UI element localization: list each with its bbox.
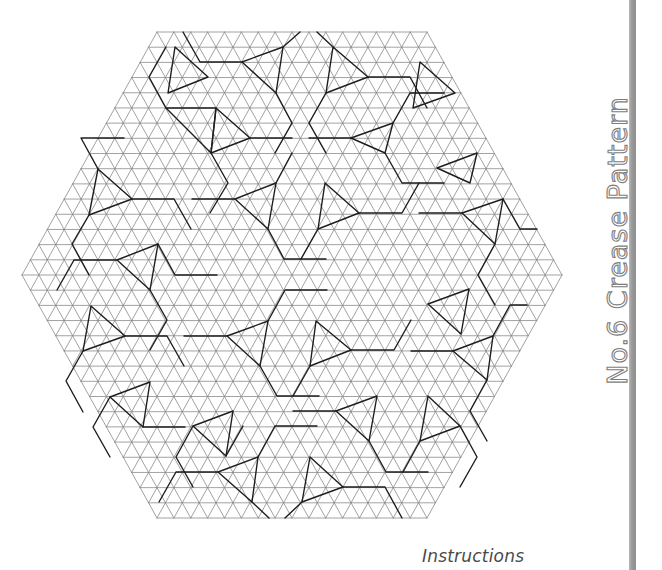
grid-line xyxy=(216,214,224,229)
grid-line xyxy=(351,442,359,457)
grid-line xyxy=(241,366,249,381)
grid-line xyxy=(115,93,123,108)
grid-line xyxy=(300,412,308,427)
grid-line xyxy=(39,245,47,260)
grid-line xyxy=(241,214,249,229)
grid-line xyxy=(376,488,384,503)
grid-line xyxy=(385,93,393,108)
grid-line xyxy=(376,503,384,518)
grid-line xyxy=(334,260,342,275)
grid-line xyxy=(225,62,233,77)
grid-line xyxy=(56,321,64,336)
grid-line xyxy=(149,214,157,229)
grid-line xyxy=(309,138,317,153)
grid-line xyxy=(469,199,477,214)
grid-line xyxy=(22,260,30,275)
grid-line xyxy=(267,412,275,427)
grid-line xyxy=(419,336,427,351)
grid-line xyxy=(241,154,249,169)
grid-line xyxy=(47,275,55,290)
grid-line xyxy=(174,93,182,108)
grid-line xyxy=(115,442,123,457)
grid-line xyxy=(334,366,342,381)
grid-line xyxy=(157,184,165,199)
grid-line xyxy=(208,351,216,366)
instructions-link[interactable]: Instructions xyxy=(422,546,524,566)
grid-line xyxy=(267,488,275,503)
grid-line xyxy=(317,62,325,77)
grid-line xyxy=(334,290,342,305)
grid-line xyxy=(225,169,233,184)
grid-line xyxy=(250,108,258,123)
grid-line xyxy=(360,412,368,427)
grid-line xyxy=(174,442,182,457)
pleat-line xyxy=(276,153,292,183)
grid-line xyxy=(351,351,359,366)
grid-line xyxy=(334,32,342,47)
grid-line xyxy=(300,397,308,412)
grid-line xyxy=(258,305,266,320)
grid-line xyxy=(376,78,384,93)
grid-line xyxy=(376,336,384,351)
grid-line xyxy=(233,366,241,381)
grid-line xyxy=(123,123,131,138)
grid-line xyxy=(157,138,165,153)
grid-line xyxy=(360,154,368,169)
grid-line xyxy=(402,503,410,518)
grid-line xyxy=(402,47,410,62)
grid-line xyxy=(132,93,140,108)
grid-line xyxy=(106,123,114,138)
grid-line xyxy=(435,123,443,138)
grid-line xyxy=(385,336,393,351)
grid-line xyxy=(275,457,283,472)
grid-line xyxy=(503,305,511,320)
grid-line xyxy=(64,260,72,275)
grid-line xyxy=(216,321,224,336)
grid-line xyxy=(402,412,410,427)
grid-line xyxy=(309,245,317,260)
grid-line xyxy=(56,199,64,214)
grid-line xyxy=(309,260,317,275)
grid-line xyxy=(216,47,224,62)
grid-line xyxy=(385,184,393,199)
grid-line xyxy=(368,381,376,396)
grid-line xyxy=(208,381,216,396)
grid-line xyxy=(233,93,241,108)
grid-line xyxy=(435,62,443,77)
grid-line xyxy=(385,275,393,290)
grid-line xyxy=(360,336,368,351)
grid-line xyxy=(165,351,173,366)
grid-line xyxy=(360,169,368,184)
grid-line xyxy=(149,336,157,351)
grid-line xyxy=(427,169,435,184)
grid-line xyxy=(267,275,275,290)
grid-line xyxy=(275,108,283,123)
grid-line xyxy=(258,32,266,47)
grid-line xyxy=(157,199,165,214)
grid-line xyxy=(528,260,536,275)
grid-line xyxy=(300,442,308,457)
grid-line xyxy=(317,412,325,427)
grid-line xyxy=(258,108,266,123)
grid-line xyxy=(216,351,224,366)
grid-line xyxy=(376,123,384,138)
grid-line xyxy=(351,321,359,336)
grid-line xyxy=(56,229,64,244)
grid-line xyxy=(385,78,393,93)
grid-line xyxy=(376,381,384,396)
grid-line xyxy=(250,78,258,93)
grid-line xyxy=(343,397,351,412)
grid-line xyxy=(300,169,308,184)
grid-line xyxy=(410,108,418,123)
grid-line xyxy=(435,290,443,305)
grid-line xyxy=(300,381,308,396)
grid-line xyxy=(435,229,443,244)
grid-line xyxy=(157,290,165,305)
grid-line xyxy=(174,503,182,518)
grid-line xyxy=(351,472,359,487)
grid-line xyxy=(174,351,182,366)
grid-line xyxy=(165,154,173,169)
grid-line xyxy=(275,427,283,442)
grid-line xyxy=(292,442,300,457)
grid-line xyxy=(461,442,469,457)
